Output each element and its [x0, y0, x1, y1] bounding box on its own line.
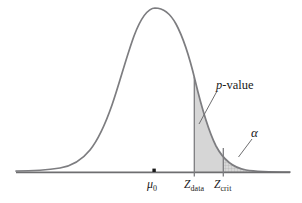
- zdata-subscript: data: [190, 184, 204, 193]
- pvalue-label: p-value: [216, 79, 253, 92]
- alpha-leader-line: [239, 139, 253, 157]
- zdata-label: Zdata: [184, 179, 204, 193]
- mu-subscript: 0: [153, 184, 157, 193]
- zcrit-label: Zcrit: [214, 179, 231, 193]
- zcrit-subscript: crit: [220, 184, 231, 193]
- distribution-figure: [0, 0, 302, 203]
- alpha-label: α: [251, 126, 258, 139]
- mu-zero-axis-marker: [152, 169, 155, 172]
- mu-zero-label: μ0: [147, 178, 157, 193]
- pvalue-label-rest: -value: [222, 78, 253, 92]
